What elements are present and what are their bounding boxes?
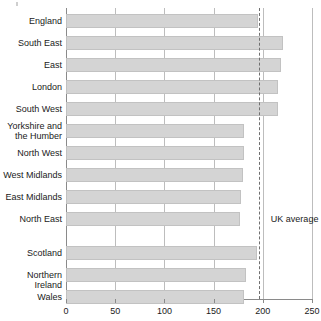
x-tick-label: 200	[255, 306, 270, 316]
bar	[66, 290, 244, 304]
category-label: East Midlands	[0, 192, 62, 202]
x-tick	[66, 299, 67, 303]
image-artifact-top-left	[16, 2, 18, 6]
category-label: Yorkshire and the Humber	[0, 121, 62, 141]
x-tick-label: 50	[110, 306, 120, 316]
x-tick	[312, 299, 313, 303]
category-label: Wales	[0, 292, 62, 302]
x-tick	[115, 299, 116, 303]
bar	[66, 124, 244, 138]
x-tick	[164, 299, 165, 303]
plot-area: UK average	[66, 8, 312, 299]
x-tick	[214, 299, 215, 303]
bar	[66, 190, 241, 204]
category-label: South West	[0, 104, 62, 114]
gridline-200	[263, 8, 264, 299]
x-tick-label: 100	[157, 306, 172, 316]
gridline-250	[312, 8, 313, 299]
uk-average-label: UK average	[271, 214, 319, 224]
bar	[66, 36, 283, 50]
category-label: Northern Ireland	[0, 270, 62, 290]
category-label: Scotland	[0, 248, 62, 258]
bar	[66, 102, 278, 116]
category-label: London	[0, 82, 62, 92]
bar	[66, 80, 278, 94]
x-tick-label: 150	[206, 306, 221, 316]
category-label: North West	[0, 148, 62, 158]
category-label: South East	[0, 38, 62, 48]
bar	[66, 268, 246, 282]
x-tick-label: 250	[304, 306, 319, 316]
bar-chart: EnglandSouth EastEastLondonSouth WestYor…	[0, 0, 321, 321]
bar	[66, 14, 258, 28]
category-axis-labels: EnglandSouth EastEastLondonSouth WestYor…	[0, 8, 62, 299]
category-label: West Midlands	[0, 170, 62, 180]
x-tick-label: 0	[63, 306, 68, 316]
x-tick	[263, 299, 264, 303]
category-label: East	[0, 60, 62, 70]
bar	[66, 146, 244, 160]
bar	[66, 246, 257, 260]
bar	[66, 58, 281, 72]
category-label: North East	[0, 214, 62, 224]
uk-average-line	[259, 8, 260, 299]
bar	[66, 168, 243, 182]
bar	[66, 212, 240, 226]
category-label: England	[0, 16, 62, 26]
